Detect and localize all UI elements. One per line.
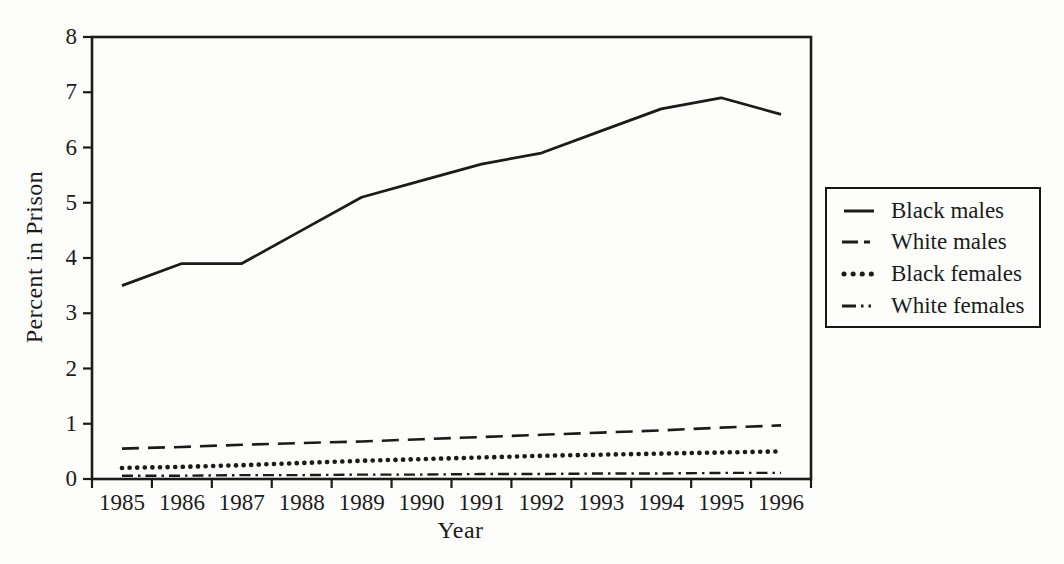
series-line-black-males xyxy=(122,98,781,286)
x-tick-label: 1993 xyxy=(571,489,631,517)
x-tick-label: 1987 xyxy=(212,489,272,517)
y-tick-label: 2 xyxy=(0,357,77,381)
legend-marker-dash-dot-line-icon xyxy=(839,300,883,312)
series-line-white-females xyxy=(122,473,781,476)
legend-label: White males xyxy=(891,229,1007,255)
legend: Black males White males Black females Wh… xyxy=(825,187,1041,328)
y-tick-label: 3 xyxy=(0,301,77,325)
x-tick-label: 1988 xyxy=(272,489,332,517)
legend-label: Black females xyxy=(891,261,1022,287)
figure: Percent in Prison Year 8 7 6 5 4 3 2 1 0… xyxy=(0,0,1064,564)
x-tick-label: 1990 xyxy=(392,489,452,517)
x-axis-tick-labels: 1985 1986 1987 1988 1989 1990 1991 1992 … xyxy=(92,489,811,517)
x-tick-label: 1989 xyxy=(332,489,392,517)
x-tick-label: 1996 xyxy=(751,489,811,517)
legend-marker-dotted-line-icon xyxy=(839,268,883,280)
x-tick-label: 1986 xyxy=(152,489,212,517)
legend-item: White males xyxy=(839,227,1039,259)
x-tick-label: 1992 xyxy=(511,489,571,517)
x-tick-label: 1995 xyxy=(691,489,751,517)
y-tick-label: 8 xyxy=(0,25,77,49)
series-line-white-males xyxy=(122,425,781,448)
x-tick-label: 1991 xyxy=(452,489,512,517)
series-line-black-females xyxy=(122,451,781,468)
x-tick-label: 1994 xyxy=(631,489,691,517)
y-tick-label: 0 xyxy=(0,467,77,491)
y-tick-label: 1 xyxy=(0,412,77,436)
y-tick-label: 6 xyxy=(0,136,77,160)
y-tick-label: 5 xyxy=(0,191,77,215)
y-tick-label: 4 xyxy=(0,246,77,270)
legend-item: Black females xyxy=(839,258,1039,290)
y-tick-label: 7 xyxy=(0,80,77,104)
legend-label: White females xyxy=(891,293,1024,319)
axes-frame xyxy=(92,37,811,479)
legend-item: White females xyxy=(839,290,1039,322)
legend-label: Black males xyxy=(891,198,1004,224)
legend-marker-solid-line-icon xyxy=(839,205,883,217)
legend-item: Black males xyxy=(839,195,1039,227)
legend-marker-dashed-line-icon xyxy=(839,236,883,248)
x-axis-title: Year xyxy=(101,517,820,544)
x-tick-label: 1985 xyxy=(92,489,152,517)
